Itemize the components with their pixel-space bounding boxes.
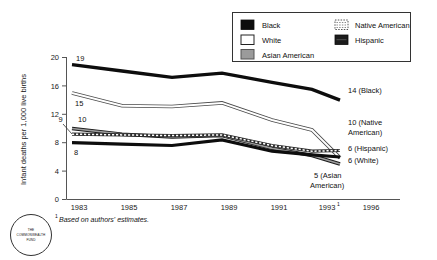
x-tick-label-1987: 1987 bbox=[171, 203, 188, 212]
start-label-black: 19 bbox=[76, 54, 84, 63]
end-label-native-american-line2: American) bbox=[348, 128, 383, 137]
x-tick-1993-footnote-marker: 1 bbox=[337, 201, 340, 207]
start-label-white: 15 bbox=[75, 99, 83, 108]
legend-label-black: Black bbox=[262, 21, 281, 30]
end-label-asian-american-line2: American) bbox=[310, 181, 345, 190]
y-tick-label-20: 20 bbox=[51, 53, 59, 62]
footnote-text: Based on authors' estimates. bbox=[59, 216, 149, 223]
start-label-hispanic: 8 bbox=[74, 148, 78, 157]
legend-label-hispanic: Hispanic bbox=[355, 36, 384, 45]
x-tick-label-1985: 1985 bbox=[121, 203, 138, 212]
legend-label-native-american: Native American bbox=[355, 21, 410, 30]
end-label-asian-american: 5 (Asian bbox=[314, 171, 342, 180]
start-label-native: 9 bbox=[59, 115, 63, 124]
x-tick-label-1991: 1991 bbox=[271, 203, 288, 212]
x-tick-label-1983: 1983 bbox=[71, 203, 88, 212]
end-label-hispanic: 6 (Hispanic) bbox=[348, 144, 389, 153]
legend: Black White Asian American Native Americ… bbox=[233, 13, 411, 62]
legend-label-asian-american: Asian American bbox=[262, 51, 314, 60]
end-label-black: 14 (Black) bbox=[348, 86, 382, 95]
chart-root: 20 16 12 8 4 0 Infant deaths per 1,000 l… bbox=[0, 0, 437, 260]
end-label-white: 6 (White) bbox=[348, 156, 379, 165]
logo-line-2: COMMONWEALTH bbox=[17, 233, 46, 237]
legend-swatch-white bbox=[241, 35, 254, 45]
y-tick-label-16: 16 bbox=[51, 82, 59, 91]
legend-swatch-asian-american bbox=[241, 50, 254, 60]
y-tick-label-0: 0 bbox=[55, 195, 59, 204]
y-tick-label-8: 8 bbox=[55, 138, 59, 147]
x-tick-label-1996: 1996 bbox=[363, 203, 380, 212]
legend-label-white: White bbox=[262, 36, 281, 45]
y-tick-label-4: 4 bbox=[55, 167, 59, 176]
x-tick-label-1989: 1989 bbox=[221, 203, 238, 212]
infant-mortality-line-chart: 20 16 12 8 4 0 Infant deaths per 1,000 l… bbox=[0, 0, 437, 260]
logo-line-1: THE bbox=[28, 228, 35, 232]
end-label-native-american: 10 (Native bbox=[348, 118, 382, 127]
legend-box bbox=[233, 13, 411, 62]
y-axis-title: Infant deaths per 1,000 live births bbox=[19, 74, 28, 185]
commonwealth-fund-logo: THE COMMONWEALTH FUND bbox=[11, 215, 52, 256]
legend-swatch-black bbox=[241, 20, 254, 30]
start-label-asian: 10 bbox=[78, 115, 86, 124]
x-tick-label-1993: 1993 bbox=[319, 203, 336, 212]
logo-line-3: FUND bbox=[26, 238, 36, 242]
footnote-marker: 1 bbox=[55, 213, 58, 219]
